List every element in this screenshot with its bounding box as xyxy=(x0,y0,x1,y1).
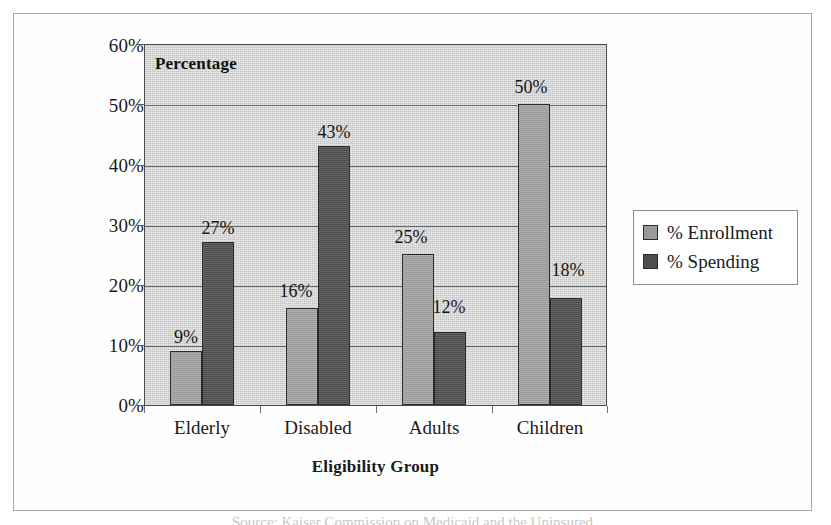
x-axis-tick-label: Children xyxy=(492,417,608,439)
bar-value-label: 18% xyxy=(538,261,598,279)
x-axis-tick-mark xyxy=(492,406,493,413)
x-axis-tick-mark xyxy=(144,406,145,413)
x-axis-tick-label: Elderly xyxy=(144,417,260,439)
y-axis-tick-label: 20% xyxy=(86,276,144,295)
legend-item-enrollment[interactable]: % Enrollment xyxy=(643,218,788,247)
x-axis-title: Eligibility Group xyxy=(144,457,607,477)
x-axis-tick-label: Adults xyxy=(376,417,492,439)
bar-value-label: 27% xyxy=(188,219,248,237)
bar-group-elderly: 9% 27% xyxy=(145,45,261,405)
x-axis-tick-label: Disabled xyxy=(260,417,376,439)
bar-value-label: 12% xyxy=(419,298,479,316)
legend-item-label: % Enrollment xyxy=(667,223,773,243)
bar-elderly-spending[interactable] xyxy=(202,242,234,405)
bar-value-label: 25% xyxy=(381,228,441,246)
y-axis-tick-label: 0% xyxy=(86,396,144,415)
legend-item-label: % Spending xyxy=(667,252,759,272)
figure-frame: 60% 50% 40% 30% 20% 10% 0% Percentage xyxy=(13,13,812,511)
bar-children-enrollment[interactable] xyxy=(518,104,550,405)
figure-caption: Source: Kaiser Commission on Medicaid an… xyxy=(13,515,812,525)
x-axis-tick-mark xyxy=(260,406,261,413)
bar-elderly-enrollment[interactable] xyxy=(170,351,202,405)
bar-children-spending[interactable] xyxy=(550,298,582,405)
plot-area: Percentage 9% 27% 16% 43% xyxy=(144,44,607,406)
x-axis-tick-mark xyxy=(376,406,377,413)
bar-disabled-enrollment[interactable] xyxy=(286,308,318,405)
y-axis-tick-label: 40% xyxy=(86,156,144,175)
bar-group-adults: 25% 12% xyxy=(377,45,493,405)
bar-value-label: 50% xyxy=(501,78,561,96)
y-axis-tick-label: 50% xyxy=(86,96,144,115)
bar-value-label: 43% xyxy=(304,123,364,141)
bar-value-label: 16% xyxy=(266,282,326,300)
y-axis-tick-label: 30% xyxy=(86,216,144,235)
y-axis: 60% 50% 40% 30% 20% 10% 0% xyxy=(28,14,144,512)
legend-swatch-icon xyxy=(643,225,658,240)
y-axis-tick-label: 60% xyxy=(86,36,144,55)
y-axis-tick-label: 10% xyxy=(86,336,144,355)
bar-disabled-spending[interactable] xyxy=(318,146,350,405)
bar-group-children: 50% 18% xyxy=(493,45,607,405)
legend-item-spending[interactable]: % Spending xyxy=(643,247,788,276)
bar-adults-enrollment[interactable] xyxy=(402,254,434,405)
bar-group-disabled: 16% 43% xyxy=(261,45,377,405)
bar-adults-spending[interactable] xyxy=(434,332,466,405)
x-axis-tick-mark xyxy=(607,406,608,413)
legend-swatch-icon xyxy=(643,254,658,269)
bar-chart: 60% 50% 40% 30% 20% 10% 0% Percentage xyxy=(14,14,813,512)
legend: % Enrollment % Spending xyxy=(633,210,798,285)
